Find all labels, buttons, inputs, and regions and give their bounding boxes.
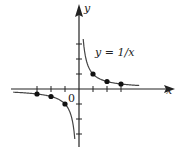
x-axis-label: x [166, 84, 173, 97]
data-point [90, 71, 95, 76]
data-point [104, 79, 109, 84]
data-point [34, 91, 39, 96]
origin-label: 0 [68, 92, 75, 105]
data-point [118, 81, 123, 86]
curve-branch-negative [13, 92, 75, 139]
data-point [48, 94, 53, 99]
plot-area: x y 0 y = 1/x [0, 0, 181, 153]
chart: x y 0 y = 1/x [0, 0, 181, 153]
curve-annotation: y = 1/x [94, 46, 135, 59]
y-axis-label: y [83, 2, 91, 15]
data-point [62, 101, 67, 106]
